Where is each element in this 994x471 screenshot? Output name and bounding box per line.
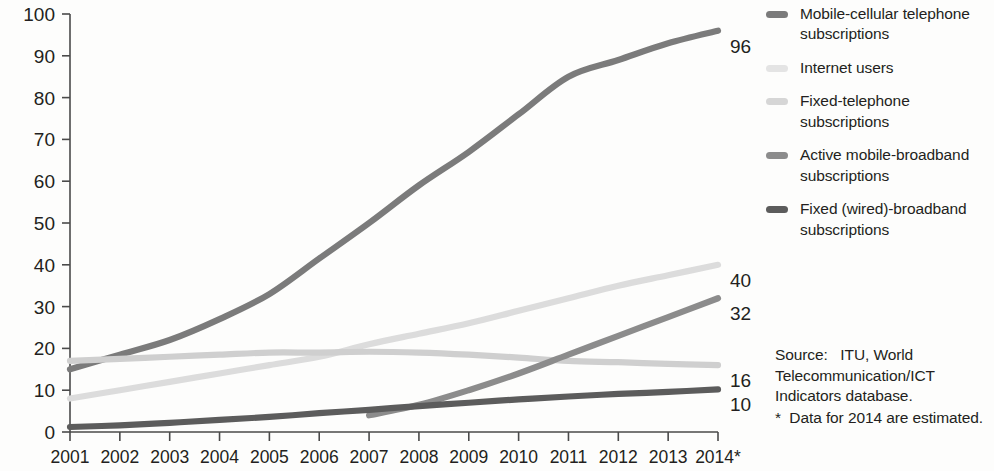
legend-item[interactable]: Fixed (wired)-broadband subscriptions (762, 199, 994, 240)
series-line (70, 31, 718, 370)
x-axis-tick-label: 2014* (695, 447, 741, 467)
source-line-3: Indicators database. (775, 386, 994, 407)
y-axis-tick-label: 20 (34, 338, 55, 359)
x-axis-tick-label: 2006 (300, 447, 339, 467)
legend-item-label: Fixed (wired)-broadband subscriptions (800, 199, 994, 240)
y-axis-tick-label: 30 (34, 297, 55, 318)
y-axis-tick-label: 50 (34, 213, 55, 234)
legend-color-swatch-icon (766, 65, 788, 72)
series-end-value-label: 32 (730, 303, 751, 324)
y-axis-tick-label: 90 (34, 46, 55, 67)
source-note-block: Source: ITU, World Telecommunication/ICT… (775, 345, 994, 428)
x-axis-tick-label: 2004 (200, 447, 239, 467)
legend-color-swatch-icon (766, 11, 788, 18)
series-line (70, 352, 718, 365)
x-axis-tick-label: 2010 (499, 447, 538, 467)
x-axis-tick-label: 2011 (550, 447, 588, 467)
legend-item[interactable]: Mobile-cellular telephone subscriptions (762, 4, 994, 45)
source-footnote: * Data for 2014 are estimated. (775, 408, 994, 429)
y-axis-tick-label: 60 (34, 171, 55, 192)
x-axis-tick-label: 2013 (649, 447, 688, 467)
legend-color-swatch-icon (766, 98, 788, 105)
y-axis-tick-label: 70 (34, 129, 55, 150)
legend-item[interactable]: Active mobile-broadband subscriptions (762, 145, 994, 186)
x-axis-tick-label: 2002 (100, 447, 139, 467)
y-axis-tick-label: 10 (34, 380, 55, 401)
legend-swatch-cell (762, 199, 800, 213)
line-chart: 0102030405060708090100 20012002200320042… (0, 0, 760, 471)
series-end-value-label: 16 (730, 370, 751, 391)
x-axis-tick-label: 2009 (449, 447, 488, 467)
x-axis-tick-label: 2001 (51, 447, 90, 467)
x-axis-tick-label: 2008 (399, 447, 438, 467)
x-axis: 2001200220032004200520062007200820092010… (51, 432, 742, 467)
x-axis-tick-label: 2007 (350, 447, 389, 467)
legend-item-label: Active mobile-broadband subscriptions (800, 145, 994, 186)
legend-color-swatch-icon (766, 152, 788, 159)
legend-item-label: Mobile-cellular telephone subscriptions (800, 4, 994, 45)
y-axis: 0102030405060708090100 (23, 4, 70, 443)
legend-item[interactable]: Fixed-telephone subscriptions (762, 91, 994, 132)
source-line-1: Source: ITU, World (775, 345, 994, 366)
legend-color-swatch-icon (766, 206, 788, 213)
legend-swatch-cell (762, 58, 800, 72)
chart-page: 0102030405060708090100 20012002200320042… (0, 0, 994, 471)
x-axis-tick-label: 2003 (150, 447, 189, 467)
series-end-value-label: 40 (730, 270, 751, 291)
y-axis-tick-label: 0 (44, 422, 55, 443)
source-line-2: Telecommunication/ICT (775, 366, 994, 387)
chart-canvas: 0102030405060708090100 20012002200320042… (0, 0, 760, 471)
legend-swatch-cell (762, 4, 800, 18)
series-lines (70, 31, 718, 427)
series-end-value-label: 96 (730, 36, 751, 57)
x-axis-tick-label: 2005 (250, 447, 289, 467)
legend-item[interactable]: Internet users (762, 58, 994, 78)
y-axis-tick-label: 40 (34, 255, 55, 276)
y-axis-tick-label: 100 (23, 4, 55, 25)
legend-swatch-cell (762, 145, 800, 159)
x-axis-tick-label: 2012 (599, 447, 638, 467)
chart-legend: Mobile-cellular telephone subscriptionsI… (762, 4, 994, 253)
series-end-value-label: 10 (730, 394, 751, 415)
series-line (70, 389, 718, 427)
y-axis-tick-label: 80 (34, 88, 55, 109)
legend-item-label: Internet users (800, 58, 893, 78)
legend-swatch-cell (762, 91, 800, 105)
legend-item-label: Fixed-telephone subscriptions (800, 91, 994, 132)
series-end-labels: 9640163210 (730, 36, 751, 416)
